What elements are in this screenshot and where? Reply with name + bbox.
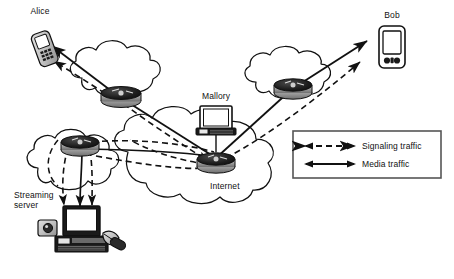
legend-label-signaling: Signaling traffic <box>362 141 422 151</box>
node-label-mallory: Mallory <box>188 91 244 101</box>
node-label-streaming-server-line2: server <box>14 200 38 210</box>
node-label-alice: Alice <box>12 6 68 16</box>
cloud-label-internet: Internet <box>210 181 240 191</box>
legend-label-media: Media traffic <box>362 159 409 169</box>
legend <box>0 0 454 279</box>
node-label-bob: Bob <box>364 10 420 20</box>
network-diagram: Alice Bob Mallory Streaming server Inter… <box>0 0 454 279</box>
node-label-streaming-server-line1: Streaming <box>14 190 54 200</box>
legend-box <box>293 131 441 178</box>
